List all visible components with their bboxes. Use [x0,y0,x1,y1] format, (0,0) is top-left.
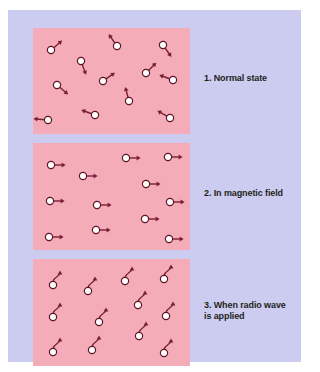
nucleus-circle [47,46,54,53]
nucleus-circle [122,154,129,161]
spin-particle [152,302,180,330]
precession-arrow-head [104,308,109,312]
spin-arrow-head [157,182,161,187]
nucleus-circle [47,161,54,168]
spin-particle [74,277,102,305]
nucleus-circle [84,287,91,294]
panel-magnetic-field [33,143,190,250]
spin-arrow-stem [110,36,115,43]
spin-particle [69,162,97,190]
spin-particle [156,104,184,132]
spin-arrow-stem [54,43,60,48]
nucleus-circle [49,348,56,355]
spin-particle [39,303,67,331]
spin-arrow-head [181,200,185,205]
spin-arrow-head [156,109,162,115]
nucleus-circle [45,233,52,240]
nucleus-circle [160,349,167,356]
caption-magnetic-field: 2. In magnetic field [204,188,283,199]
spin-arrow-stem [36,119,44,120]
spin-particle [78,336,106,364]
spin-particle [81,101,109,129]
precession-arrow-head [93,277,98,281]
spin-particle [37,36,65,64]
panel-radio-wave [33,259,190,366]
spin-particle [34,106,62,134]
spin-arrow-stem [84,111,92,114]
spin-arrow-stem [162,76,170,79]
nucleus-circle [44,116,51,123]
spin-particle [37,151,65,179]
spin-particle [112,144,140,172]
spin-arrow-head [158,73,163,79]
precession-arrow-head [58,338,63,342]
precession-arrow-head [144,322,149,326]
nucleus-circle [49,313,56,320]
nucleus-circle [141,215,148,222]
spin-arrow-head [107,228,111,233]
nucleus-circle [125,97,132,104]
precession-arrow-head [130,267,135,271]
precession-arrow-head [97,336,102,340]
spin-arrow-head [61,199,65,204]
spin-particle [156,188,184,216]
nucleus-circle [99,77,106,84]
caption-radio-wave: 3. When radio wave is applied [204,300,286,323]
spin-particle [83,191,111,219]
panel-normal-state [33,28,190,134]
spin-particle [154,143,182,171]
spin-arrow-stem [106,74,113,79]
nucleus-circle [159,41,166,48]
spin-arrow-head [82,70,88,75]
spin-particle [39,338,67,366]
spin-particle [82,216,110,244]
spin-arrow-stem [160,112,167,116]
spin-particle [124,291,152,319]
spin-particle [89,67,117,95]
nucleus-circle [93,201,100,208]
spin-particle [132,59,160,87]
nucleus-circle [91,111,98,118]
spin-arrow-head [33,116,37,121]
spin-particle [103,32,131,60]
spin-arrow-stem [165,48,170,55]
nucleus-circle [95,318,102,325]
nucleus-circle [79,172,86,179]
spin-particle [150,265,178,293]
nucleus-circle [121,277,128,284]
nucleus-circle [49,281,56,288]
spin-arrow-head [60,235,64,240]
nucleus-circle [160,275,167,282]
spin-arrow-head [123,86,129,91]
nucleus-circle [135,332,142,339]
spin-particle [150,339,178,366]
nucleus-circle [113,42,120,49]
nucleus-circle [166,114,173,121]
spin-arrow-stem [126,90,128,98]
spin-particle [159,66,187,94]
nucleus-circle [88,346,95,353]
spin-particle [36,187,64,215]
nucleus-circle [92,226,99,233]
spin-arrow-head [94,174,98,179]
nucleus-circle [169,76,176,83]
spin-arrow-head [156,217,160,222]
spin-arrow-head [137,156,141,161]
spin-particle [35,223,63,250]
nucleus-circle [166,198,173,205]
nucleus-circle [164,153,171,160]
nucleus-circle [134,301,141,308]
spin-particle [155,225,183,250]
nucleus-circle [165,235,172,242]
spin-particle [43,71,71,99]
precession-arrow-head [169,339,174,343]
nucleus-circle [46,197,53,204]
nucleus-circle [77,57,84,64]
nucleus-circle [162,312,169,319]
precession-arrow-head [58,303,63,307]
precession-arrow-head [143,291,148,295]
spin-arrow-head [180,237,184,242]
spin-arrow-stem [82,64,85,72]
precession-arrow-head [171,302,176,306]
spin-particle [39,271,67,299]
